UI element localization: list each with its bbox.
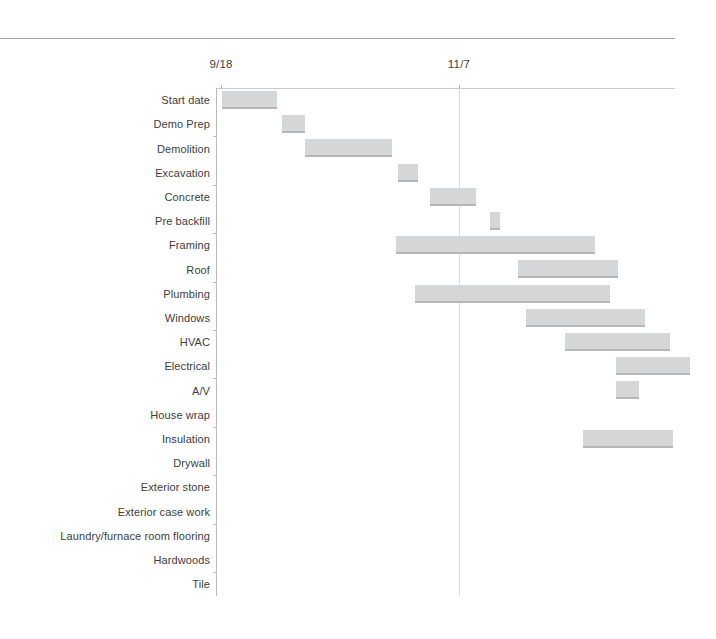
date-axis-label: 11/7 xyxy=(448,58,470,70)
gantt-bar xyxy=(490,212,500,230)
gantt-bar xyxy=(398,164,418,182)
gantt-bar xyxy=(222,91,277,109)
task-label: HVAC xyxy=(180,336,210,348)
task-label: Laundry/furnace room flooring xyxy=(60,530,210,542)
task-label: Framing xyxy=(169,239,210,251)
task-label: Roof xyxy=(186,264,210,276)
task-label: Exterior case work xyxy=(118,506,210,518)
task-label: Demo Prep xyxy=(153,118,210,130)
task-label: Start date xyxy=(161,94,210,106)
vertical-gridline xyxy=(459,88,460,596)
task-label: Electrical xyxy=(164,360,210,372)
gantt-bar xyxy=(526,309,645,327)
date-axis-line xyxy=(216,88,675,89)
gantt-bar xyxy=(616,381,639,399)
category-axis-tick xyxy=(213,524,217,525)
task-label: Plumbing xyxy=(163,288,210,300)
category-axis-line xyxy=(216,88,217,596)
task-label: Pre backfill xyxy=(155,215,210,227)
category-axis-tick xyxy=(213,572,217,573)
gantt-bar xyxy=(518,260,618,278)
gantt-bar xyxy=(430,188,476,206)
gantt-bar xyxy=(616,357,690,375)
category-axis-tick xyxy=(213,475,217,476)
gantt-bar xyxy=(415,285,610,303)
gantt-bar xyxy=(583,430,673,448)
task-label: Tile xyxy=(192,578,210,590)
date-axis-tick xyxy=(221,85,222,89)
gantt-chart: 9/1811/7 Start dateDemo PrepDemolitionEx… xyxy=(0,0,716,639)
category-axis-tick xyxy=(213,136,217,137)
task-label: Insulation xyxy=(162,433,210,445)
task-label: Drywall xyxy=(173,457,210,469)
date-axis-label: 9/18 xyxy=(209,58,232,70)
category-axis-tick xyxy=(213,427,217,428)
category-axis-tick xyxy=(213,330,217,331)
gantt-bar xyxy=(282,115,305,133)
task-label: Exterior stone xyxy=(141,481,210,493)
task-label: Excavation xyxy=(155,167,210,179)
gantt-bar xyxy=(396,236,595,254)
task-label: A/V xyxy=(192,385,210,397)
category-axis-tick xyxy=(213,282,217,283)
task-label: Concrete xyxy=(165,191,210,203)
gantt-bar xyxy=(565,333,670,351)
category-axis-tick xyxy=(213,233,217,234)
category-axis-tick xyxy=(213,185,217,186)
task-label: Demolition xyxy=(157,143,210,155)
plot-area xyxy=(216,88,675,596)
task-label: Windows xyxy=(165,312,210,324)
category-axis-tick xyxy=(213,378,217,379)
task-label: House wrap xyxy=(150,409,210,421)
gantt-bar xyxy=(305,139,392,157)
task-label: Hardwoods xyxy=(153,554,210,566)
